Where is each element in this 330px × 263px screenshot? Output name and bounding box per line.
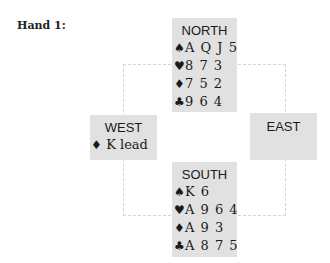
south-spades: ♠K 6 [172, 183, 237, 201]
south-hand: SOUTH ♠K 6 ♥A 9 6 4 ♦A 9 3 ♣A 8 7 5 [172, 162, 237, 257]
card-list: K 6 [185, 184, 210, 199]
club-icon: ♣ [174, 93, 185, 111]
north-clubs: ♣9 6 4 [172, 93, 237, 111]
east-label: EAST [250, 119, 317, 135]
card-list: A 9 3 [185, 220, 224, 235]
card-list: A 8 7 5 [185, 238, 239, 253]
heart-icon: ♥ [174, 57, 185, 75]
lead-text: K lead [102, 137, 148, 152]
south-diamonds: ♦A 9 3 [172, 219, 237, 237]
card-list: 7 5 2 [185, 76, 223, 91]
south-clubs: ♣A 8 7 5 [172, 237, 237, 255]
west-hand: WEST ♦ K lead [90, 115, 157, 160]
north-hand: NORTH ♠A Q J 5 ♥8 7 3 ♦7 5 2 ♣9 6 4 [172, 18, 237, 112]
south-hearts: ♥A 9 6 4 [172, 201, 237, 219]
card-list: A 9 6 4 [185, 202, 239, 217]
diamond-icon: ♦ [91, 136, 102, 154]
hand-title: Hand 1: [17, 19, 66, 32]
club-icon: ♣ [174, 237, 185, 255]
north-spades: ♠A Q J 5 [172, 39, 237, 57]
east-hand: EAST [250, 113, 317, 160]
west-lead: ♦ K lead [90, 136, 157, 154]
spade-icon: ♠ [174, 183, 185, 201]
north-label: NORTH [172, 23, 237, 39]
north-hearts: ♥8 7 3 [172, 57, 237, 75]
diamond-icon: ♦ [174, 75, 185, 93]
diamond-icon: ♦ [174, 219, 185, 237]
card-list: A Q J 5 [185, 40, 238, 55]
card-list: 9 6 4 [185, 94, 223, 109]
heart-icon: ♥ [174, 201, 185, 219]
south-label: SOUTH [172, 167, 237, 183]
spade-icon: ♠ [174, 39, 185, 57]
west-label: WEST [90, 120, 157, 136]
card-list: 8 7 3 [185, 58, 223, 73]
north-diamonds: ♦7 5 2 [172, 75, 237, 93]
